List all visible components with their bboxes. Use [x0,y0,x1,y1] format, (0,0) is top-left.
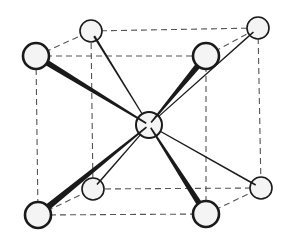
atom-back-top-left [80,20,102,42]
atom-back-bottom-right [250,177,272,199]
cube-edge [36,56,38,215]
bond-front-top-left-to-center [41,57,147,124]
bond-front-top-right-to-center [151,60,204,123]
crystal-structure-canvas [0,0,292,242]
bcc-unit-cell-diagram [0,0,292,242]
cube-edge [93,188,261,189]
atom-front-top-right [193,43,219,69]
bond-back-bottom-left-to-center [96,127,147,185]
cube-edge [91,28,258,31]
cube-edge [91,31,93,189]
front-bonds [41,57,205,213]
cube-edge [258,28,261,188]
bond-front-bottom-right-to-center [150,127,205,209]
bond-back-top-left-to-center [93,36,148,123]
atom-front-bottom-right [193,201,219,227]
cube-edge [38,214,206,215]
atom-front-top-left [23,43,49,69]
back-atoms [80,17,272,200]
atom-center [136,112,162,138]
center-atom-group [136,112,162,138]
atom-front-bottom-left [25,202,51,228]
